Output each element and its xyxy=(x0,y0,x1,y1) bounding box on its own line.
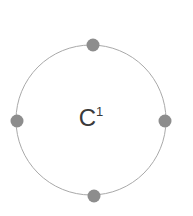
electron-bottom xyxy=(88,190,101,203)
electron-left xyxy=(11,115,24,128)
shell-diagram-canvas: C1 xyxy=(0,0,193,216)
electron-right xyxy=(159,115,172,128)
nucleus-label: C1 xyxy=(79,104,104,131)
nucleus-superscript: 1 xyxy=(96,104,103,119)
electron-top xyxy=(87,39,100,52)
shell-diagram-svg: C1 xyxy=(0,0,193,216)
nucleus-element-symbol: C xyxy=(79,104,96,131)
